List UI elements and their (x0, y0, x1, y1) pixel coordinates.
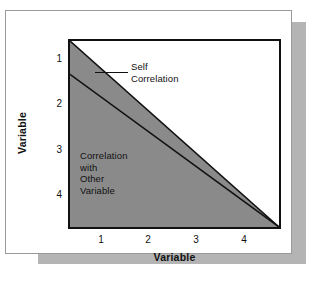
x-tick-label-3: 3 (189, 234, 203, 245)
x-tick-label-4: 4 (237, 234, 251, 245)
y-tick-label-3: 3 (48, 144, 62, 155)
figure-card: Self Correlation Correlation with Other … (5, 10, 292, 254)
self-correlation-label: Self Correlation (131, 61, 179, 84)
figure-root: Self Correlation Correlation with Other … (0, 0, 314, 283)
self-correlation-leader-line (95, 72, 128, 73)
y-tick-label-1: 1 (48, 53, 62, 64)
y-tick-label-4: 4 (48, 189, 62, 200)
y-tick-label-2: 2 (48, 98, 62, 109)
y-axis-title: Variable (16, 98, 28, 168)
other-correlation-region-label: Correlation with Other Variable (80, 150, 128, 196)
x-tick-label-2: 2 (141, 234, 155, 245)
x-tick-label-1: 1 (94, 234, 108, 245)
x-axis-title: Variable (68, 251, 281, 263)
